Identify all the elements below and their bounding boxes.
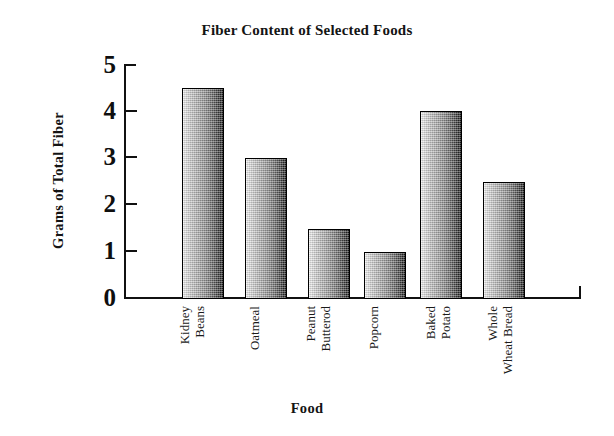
bar-kidney-beans[interactable] [182, 88, 224, 300]
x-tick-label-peanut-butter-line2: Butterod [319, 306, 333, 426]
x-tick-label-peanut-butter-line1: Peanut [304, 306, 318, 426]
x-tick-label-oatmeal: Oatmeal [248, 306, 262, 426]
bar-peanut-butter[interactable] [308, 229, 350, 300]
plot-area [124, 64, 581, 299]
y-tick-label-3: 3 [82, 144, 116, 169]
y-axis-title: Grams of Total Fiber [50, 61, 67, 301]
x-tick-label-baked-potato-line2: Potato [439, 306, 453, 426]
bar-baked-potato[interactable] [420, 111, 462, 299]
x-tick-label-kidney-beans-line1: Kidney [178, 306, 192, 426]
x-tick-label-whole-wheat-bread-line2: Wheat Bread [501, 306, 515, 426]
x-tick-label-kidney-beans-line2: Beans [193, 306, 207, 426]
x-tick-label-baked-potato-line1: Baked [424, 306, 438, 426]
x-tick-label-popcorn: Popcorn [367, 306, 381, 426]
y-tick-label-0: 0 [82, 285, 116, 310]
x-tick-label-whole-wheat-bread-line1: Whole [486, 306, 500, 426]
y-tick-label-5: 5 [82, 52, 116, 77]
bar-oatmeal[interactable] [245, 158, 287, 299]
chart-title: Fiber Content of Selected Foods [0, 22, 614, 39]
bar-popcorn[interactable] [364, 252, 406, 299]
bar-whole-wheat-bread[interactable] [483, 182, 525, 300]
y-tick-label-1: 1 [82, 238, 116, 263]
bar-chart: Fiber Content of Selected Foods Grams of… [0, 0, 614, 436]
y-tick-label-2: 2 [82, 191, 116, 216]
y-tick-label-4: 4 [82, 98, 116, 123]
